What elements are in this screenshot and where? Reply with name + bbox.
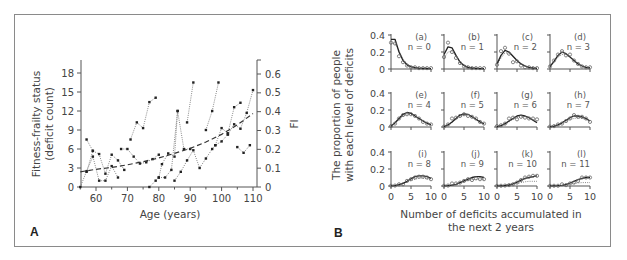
model-line [550,116,590,127]
subplot-tag: (j) [471,149,480,159]
x-tick-label: 100 [212,193,231,204]
panel-a-chart: 03691215186070809010011000.10.20.30.40.5… [30,60,300,239]
subplot-d: (d)n = 3 [547,32,592,72]
y-axis-title: Fitness-frailty status(deficit count) [30,71,55,177]
x-tick-label: 70 [121,193,134,204]
subplot-n-label: n = 10 [508,159,537,169]
figure-canvas: 03691215186070809010011000.10.20.30.40.5… [0,0,627,260]
data-point [233,106,235,108]
subplot-a: 00.20.4(a)n = 0 [370,30,433,75]
observed-point [499,50,502,53]
x-tick-label: 110 [243,193,262,204]
panel-label-a: A [30,225,39,239]
data-point [164,176,166,178]
observed-point [397,55,400,58]
y-axis-title-line: Fitness-frailty status [30,71,42,177]
y2-tick-label: 0.1 [265,163,281,174]
x-tick-label: 90 [184,193,197,204]
y-tick-label: 18 [61,68,74,79]
y2-tick-label: 0.6 [265,69,281,80]
subplot-g: (g)n = 6 [494,90,539,130]
x-axis-title: Age (years) [140,208,201,220]
data-point [236,146,238,148]
subplot-x-tick-label: 5 [514,191,520,202]
subplot-f: (f)n = 5 [441,90,486,130]
observed-point [568,53,571,56]
individual-trajectory [187,83,193,123]
subplot-y-tick-label: 0.4 [370,147,385,158]
subplot-x-tick-label: 0 [388,191,394,202]
y-axis-title-line: The proportion of people [330,50,342,181]
data-point [167,152,169,154]
subplot-x-tick-label: 0 [494,191,500,202]
subplot-e: 00.20.4(e)n = 4 [370,88,433,133]
individual-trajectory [206,83,219,131]
data-point [98,179,100,181]
subplot-y-tick-label: 0.4 [370,30,385,41]
data-point [217,81,219,83]
subplot-x-tick-label: 0 [441,191,447,202]
panel-b-chart: 00.20.4(a)n = 0(b)n = 1(c)n = 2(d)n = 30… [330,30,596,241]
subplot-h: (h)n = 7 [547,90,592,130]
subplot-n-label: n = 1 [461,42,484,52]
model-line [444,177,484,186]
data-point [104,173,106,175]
subplot-n-label: n = 7 [567,100,590,110]
observed-point [507,117,510,120]
data-point [249,144,251,146]
data-point [142,127,144,129]
subplot-x-tick-label: 5 [461,191,467,202]
y2-tick-label: 0.5 [265,87,281,98]
data-point [98,153,100,155]
data-point [158,176,160,178]
subplot-k: 0510(k)n = 10 [494,149,543,202]
y-axis-title-b: The proportion of peoplewith each level … [330,48,355,182]
subplot-tag: (i) [418,149,427,159]
y-axis-title-line: with each level of deficits [343,48,355,182]
individual-trajectory [131,98,156,140]
data-point [148,186,150,188]
data-point [211,110,213,112]
y2-axis-title: FI [288,119,300,128]
y-tick-label: 9 [68,125,74,136]
subplot-tag: (h) [574,90,586,100]
data-point [192,81,194,83]
data-point [186,121,188,123]
subplot-n-label: n = 4 [408,100,431,110]
data-point [211,148,213,150]
y2-tick-label: 0.2 [265,144,281,155]
subplot-x-tick-label: 5 [567,191,573,202]
y-tick-label: 0 [68,182,74,193]
data-point [220,140,222,142]
y-tick-label: 12 [61,106,74,117]
data-point [92,155,94,157]
data-point [126,148,128,150]
subplot-y-tick-label: 0.2 [370,105,385,116]
data-point [214,144,216,146]
subplot-x-tick-label: 0 [547,191,553,202]
trend-line [80,114,253,172]
individual-trajectory [87,151,93,172]
data-point [176,110,178,112]
data-point [154,97,156,99]
data-point [161,163,163,165]
data-point [85,171,87,173]
data-point [104,179,106,181]
subplot-i: 00.20.40510(i)n = 8 [370,147,437,203]
subplot-c: (c)n = 2 [494,32,539,72]
y2-tick-label: 0 [265,182,271,193]
subplot-tag: (c) [522,32,533,42]
subplot-n-label: n = 9 [461,159,484,169]
data-point [170,169,172,171]
subplot-x-tick-label: 10 [584,191,596,202]
data-point [198,167,200,169]
observed-point [535,118,538,121]
observed-point [511,61,514,64]
observed-point [515,118,518,121]
subplot-y-tick-label: 0 [379,64,385,75]
data-point [158,154,160,156]
subplot-l: 0510(l)n = 11 [547,149,596,202]
observed-point [450,117,453,120]
subplot-n-label: n = 5 [461,100,484,110]
x-tick-label: 80 [152,193,165,204]
